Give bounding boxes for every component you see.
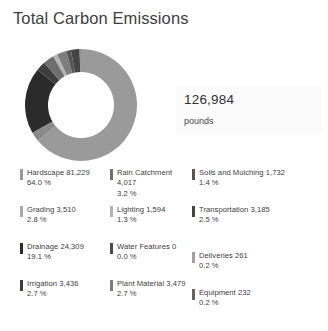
legend-color-swatch: [192, 169, 195, 180]
legend-item-percent: 2.8 %: [27, 215, 76, 225]
legend-item-label: Water Features 0: [117, 242, 176, 252]
legend-text: Water Features 00.0 %: [117, 242, 176, 263]
legend-item[interactable]: Hardscape 81,22964.0 %: [20, 168, 108, 189]
legend-color-swatch: [110, 243, 113, 254]
page-title: Total Carbon Emissions: [13, 9, 189, 28]
legend-text: Equipment 2320.2 %: [199, 288, 251, 309]
legend-color-swatch: [192, 252, 195, 263]
donut-chart: [17, 48, 145, 162]
legend-item[interactable]: Lighting 1,5941.3 %: [110, 205, 190, 226]
legend-item-label: Plant Material 3,479: [117, 279, 186, 289]
legend-text: Rain Catchment 4,0173.2 %: [117, 168, 190, 199]
legend-item-label: Soils and Mulching 1,732: [199, 168, 285, 178]
legend-item[interactable]: Irrigation 3,4362.7 %: [20, 279, 108, 300]
legend-text: Transportation 3,1852.5 %: [199, 205, 270, 226]
legend-color-swatch: [192, 206, 195, 217]
legend-item[interactable]: Transportation 3,1852.5 %: [192, 205, 320, 226]
legend-color-swatch: [20, 243, 23, 254]
legend-color-swatch: [192, 289, 195, 300]
legend-item-percent: 0.0 %: [117, 252, 176, 262]
legend-item-percent: 0.2 %: [199, 298, 251, 308]
legend-color-swatch: [110, 169, 113, 180]
legend-item[interactable]: Grading 3,5102.8 %: [20, 205, 108, 226]
legend-color-swatch: [20, 206, 23, 217]
legend-row: Irrigation 3,4362.7 %Plant Material 3,47…: [0, 279, 328, 316]
legend-item-label: Equipment 232: [199, 288, 251, 298]
legend-text: Drainage 24,30919.1 %: [27, 242, 84, 263]
legend-item-percent: 64.0 %: [27, 178, 90, 188]
legend-text: Soils and Mulching 1,7321.4 %: [199, 168, 285, 189]
legend-color-swatch: [110, 280, 113, 291]
donut-chart-svg: [17, 48, 145, 162]
legend-item-percent: 1.3 %: [117, 215, 165, 225]
legend-item-label: Lighting 1,594: [117, 205, 165, 215]
legend-text: Hardscape 81,22964.0 %: [27, 168, 90, 189]
legend-item-label: Drainage 24,309: [27, 242, 84, 252]
total-emissions-units: pounds: [184, 116, 214, 126]
legend-item[interactable]: Rain Catchment 4,0173.2 %: [110, 168, 190, 199]
legend-item-label: Hardscape 81,229: [27, 168, 90, 178]
legend-item[interactable]: Soils and Mulching 1,7321.4 %: [192, 168, 320, 189]
chart-legend: Hardscape 81,22964.0 %Rain Catchment 4,0…: [0, 168, 328, 316]
legend-row: Grading 3,5102.8 %Lighting 1,5941.3 %Tra…: [0, 205, 328, 242]
legend-item-percent: 19.1 %: [27, 252, 84, 262]
legend-text: Deliveries 2610.2 %: [199, 251, 248, 272]
donut-slices: [25, 49, 137, 161]
legend-item[interactable]: Equipment 2320.2 %: [192, 288, 320, 309]
legend-item-percent: 3.2 %: [117, 189, 190, 199]
legend-item[interactable]: Water Features 00.0 %: [110, 242, 190, 263]
legend-text: Grading 3,5102.8 %: [27, 205, 76, 226]
legend-item-label: Irrigation 3,436: [27, 279, 78, 289]
legend-text: Lighting 1,5941.3 %: [117, 205, 165, 226]
legend-text: Plant Material 3,4792.7 %: [117, 279, 186, 300]
total-emissions-value: 126,984: [184, 92, 234, 107]
legend-item-percent: 2.7 %: [117, 289, 186, 299]
legend-item-label: Grading 3,510: [27, 205, 76, 215]
legend-color-swatch: [110, 206, 113, 217]
legend-item[interactable]: Drainage 24,30919.1 %: [20, 242, 108, 263]
legend-item[interactable]: Deliveries 2610.2 %: [192, 251, 320, 272]
legend-text: Irrigation 3,4362.7 %: [27, 279, 78, 300]
legend-item-label: Deliveries 261: [199, 251, 248, 261]
legend-item-percent: 2.7 %: [27, 289, 78, 299]
legend-item-label: Rain Catchment 4,017: [117, 168, 190, 189]
legend-item-label: Transportation 3,185: [199, 205, 270, 215]
legend-item-percent: 2.5 %: [199, 215, 270, 225]
legend-row: Hardscape 81,22964.0 %Rain Catchment 4,0…: [0, 168, 328, 205]
legend-row: Drainage 24,30919.1 %Water Features 00.0…: [0, 242, 328, 279]
legend-item[interactable]: Plant Material 3,4792.7 %: [110, 279, 190, 300]
legend-color-swatch: [20, 280, 23, 291]
legend-color-swatch: [20, 169, 23, 180]
legend-item-percent: 1.4 %: [199, 178, 285, 188]
legend-item-percent: 0.2 %: [199, 261, 248, 271]
